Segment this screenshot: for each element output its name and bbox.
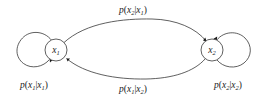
edge-label-x2-to-x1-close: ) bbox=[144, 84, 147, 95]
edge-label-x1-to-x2: p(x2|x1) bbox=[118, 5, 147, 16]
node-x1[interactable]: x1 bbox=[45, 39, 67, 61]
edge-x2-to-x1 bbox=[66, 58, 205, 79]
edge-label-x2-to-x1: p(x1|x2) bbox=[118, 84, 147, 95]
edge-x2-to-x1-path bbox=[67, 59, 206, 80]
node-x1-sub: 1 bbox=[56, 49, 59, 56]
edge-x1-to-x2 bbox=[64, 19, 207, 43]
edge-x1-to-x2-path bbox=[64, 19, 207, 43]
edge-label-x1-to-x2-close: ) bbox=[144, 5, 147, 16]
edge-label-x1-self-close: ) bbox=[45, 80, 48, 91]
markov-transition-diagram: x1 x2 p(x2|x1) p(x1|x2) p(x1|x1) p(x2|x2… bbox=[0, 0, 266, 97]
edge-label-x2-self-close: ) bbox=[239, 80, 242, 91]
edge-label-x2-self: p(x2|x2) bbox=[213, 80, 242, 91]
diagram-canvas: x1 x2 p(x2|x1) p(x1|x2) p(x1|x1) p(x2|x2… bbox=[0, 0, 266, 97]
node-x2[interactable]: x2 bbox=[201, 39, 223, 61]
edge-label-x1-self: p(x1|x1) bbox=[19, 80, 48, 91]
